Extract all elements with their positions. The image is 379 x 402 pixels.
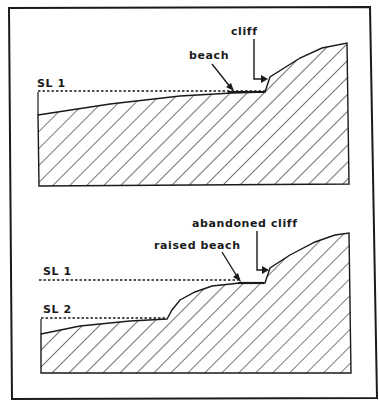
bottom-sl1-label: SL 1 xyxy=(43,265,72,278)
bottom-sl2-label: SL 2 xyxy=(43,303,72,316)
top-cliff-label: cliff xyxy=(231,25,258,38)
abandoned-cliff-label: abandoned cliff xyxy=(192,217,298,230)
raised-beach-arrow xyxy=(222,252,238,278)
bottom-panel: SL 1 SL 2 raised beach abandoned cliff xyxy=(39,217,351,373)
cliff-arrow xyxy=(254,39,263,79)
top-beach-label: beach xyxy=(189,49,229,62)
top-panel: SL 1 beach cliff xyxy=(37,25,349,186)
raised-beach-label: raised beach xyxy=(154,239,241,252)
sea-level-change-diagram: SL 1 beach cliff SL 1 SL 2 raised beach … xyxy=(0,0,379,402)
beach-arrow xyxy=(212,64,231,88)
top-sl1-label: SL 1 xyxy=(37,77,66,90)
top-land-mass xyxy=(38,43,349,186)
bottom-land-mass xyxy=(41,233,351,373)
cliff-arrow-head xyxy=(261,75,268,83)
abandoned-cliff-arrow xyxy=(257,231,264,270)
